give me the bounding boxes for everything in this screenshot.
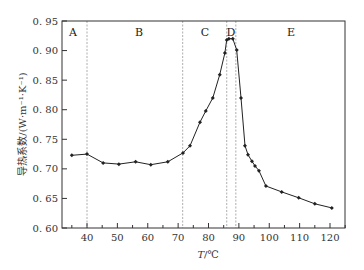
data-point-marker — [166, 160, 170, 164]
data-point-marker — [211, 96, 215, 100]
y-tick-label: 0. 60 — [33, 223, 58, 234]
region-label-b: B — [135, 26, 143, 39]
y-tick-label: 0. 80 — [33, 104, 58, 115]
y-tick-label: 0. 70 — [33, 163, 58, 174]
data-point-marker — [134, 160, 138, 164]
x-tick-label: 70 — [172, 232, 185, 243]
data-point-marker — [198, 120, 202, 124]
series-line — [72, 39, 332, 208]
region-labels: ABCDE — [68, 26, 295, 39]
data-point-marker — [223, 51, 227, 55]
y-tick-label: 0. 75 — [33, 134, 58, 145]
data-point-marker — [235, 48, 239, 52]
y-tick-label: 0. 65 — [33, 193, 58, 204]
data-point-marker — [297, 196, 301, 200]
x-tick-label: 40 — [81, 232, 94, 243]
data-point-marker — [218, 73, 222, 77]
region-label-d: D — [227, 26, 236, 39]
thermal-conductivity-chart: 405060708090100110120 0. 600. 650. 700. … — [0, 0, 364, 270]
data-point-marker — [264, 184, 268, 188]
data-point-marker — [243, 144, 247, 148]
x-tick-label: 50 — [111, 232, 124, 243]
y-tick-label: 0. 85 — [33, 75, 58, 86]
data-point-marker — [204, 109, 208, 113]
region-dividers — [87, 21, 236, 228]
y-tick-label: 0. 90 — [33, 45, 58, 56]
data-point-marker — [330, 206, 334, 210]
x-tick-label: 110 — [290, 232, 309, 243]
data-point-marker — [239, 96, 243, 100]
x-tick-label: 100 — [260, 232, 279, 243]
plot-border — [62, 21, 345, 228]
x-tick-label: 120 — [320, 232, 339, 243]
x-tick-label: 60 — [141, 232, 154, 243]
region-label-e: E — [287, 26, 295, 39]
data-point-marker — [117, 162, 121, 166]
data-point-marker — [280, 190, 284, 194]
data-point-marker — [101, 161, 105, 165]
x-tick-label: 90 — [233, 232, 246, 243]
data-point-marker — [313, 202, 317, 206]
region-label-c: C — [201, 26, 209, 39]
x-tick-label: 80 — [202, 232, 215, 243]
x-axis: 405060708090100110120 — [72, 223, 345, 243]
x-axis-label: T/℃ — [197, 249, 218, 260]
data-point-marker — [85, 152, 89, 156]
region-label-a: A — [68, 26, 78, 39]
plot-frame — [62, 21, 345, 228]
y-tick-label: 0. 95 — [33, 16, 58, 27]
data-series — [70, 37, 334, 210]
data-point-marker — [70, 153, 74, 157]
data-point-marker — [149, 163, 153, 167]
y-axis-label: 导热系数/(W·m⁻¹·K⁻¹) — [16, 72, 28, 175]
